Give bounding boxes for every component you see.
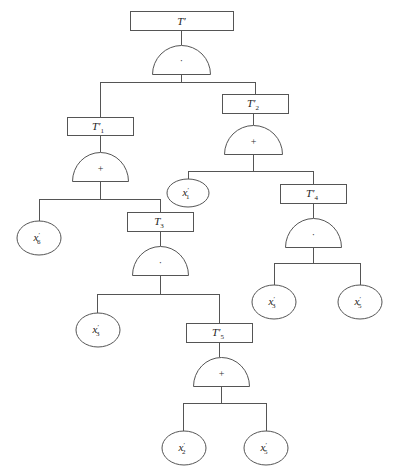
basic-event-x6: x′6 bbox=[17, 221, 61, 255]
gate-symbol: + bbox=[251, 136, 257, 147]
gate-top-and: · bbox=[153, 45, 211, 74]
basic-event-x5-t4: x′5 bbox=[338, 285, 382, 319]
basic-event-x3-t3: x′3 bbox=[76, 313, 120, 347]
top-event: T′ bbox=[131, 12, 234, 31]
event-t3: T3 bbox=[128, 213, 194, 232]
gate-t5-or: + bbox=[194, 358, 250, 387]
gate-t3-and: · bbox=[133, 247, 189, 276]
gate-symbol: · bbox=[180, 55, 183, 66]
basic-event-x2: x′2 bbox=[162, 431, 206, 465]
gate-t2-or: + bbox=[225, 126, 283, 155]
basic-event-x1: x′1 bbox=[167, 179, 209, 207]
event-t2: T′2 bbox=[223, 95, 289, 114]
basic-event-x3-t4: x′3 bbox=[252, 285, 296, 319]
gate-symbol: + bbox=[98, 163, 104, 174]
event-t5: T′5 bbox=[187, 324, 253, 343]
gate-t1-or: + bbox=[73, 153, 129, 182]
fault-tree-diagram: T′ · T′1 + T′2 + x′6 x′1 T3 · bbox=[0, 0, 397, 471]
event-t1: T′1 bbox=[68, 118, 134, 136]
gate-symbol: · bbox=[159, 257, 162, 268]
gate-symbol: · bbox=[312, 229, 315, 240]
top-event-label: T′ bbox=[177, 15, 186, 27]
gate-symbol: + bbox=[219, 368, 225, 379]
basic-event-x5-t5: x′5 bbox=[244, 431, 288, 465]
event-t4: T′4 bbox=[281, 185, 347, 204]
gate-t4-and: · bbox=[286, 219, 342, 248]
